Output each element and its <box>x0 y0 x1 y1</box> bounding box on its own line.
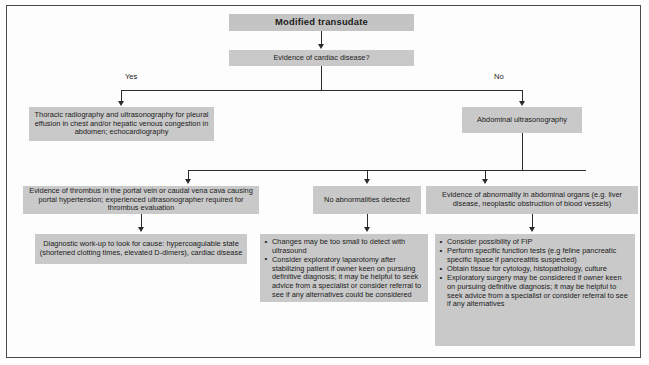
middle-actions-list: Changes may be too small to detect with … <box>264 238 424 299</box>
list-item: Perform specific function tests (e.g fel… <box>439 247 631 264</box>
node-abdominal-ultrasonography: Abdominal ultrasonography <box>462 107 582 133</box>
arrowhead-thrombus <box>185 179 191 184</box>
branch-label-yes: Yes <box>125 72 137 81</box>
list-item: Consider exploratory laparotomy after st… <box>264 256 424 300</box>
connector-decision-down <box>321 66 322 90</box>
arrowhead-yes <box>118 101 124 106</box>
node-right-actions: Consider possibility of FIP Perform spec… <box>435 234 635 346</box>
node-diagnostic-workup: Diagnostic work-up to look for cause: hy… <box>35 234 247 264</box>
arrowhead-right-actions <box>529 227 535 232</box>
arrowhead-no <box>519 101 525 106</box>
node-modified-transudate: Modified transudate <box>229 14 414 31</box>
arrowhead-middle-actions <box>364 227 370 232</box>
connector-abdominal-split <box>188 170 586 171</box>
branch-label-no: No <box>494 72 504 81</box>
arrowhead-abnormality <box>482 179 488 184</box>
connector-decision-split <box>121 90 522 91</box>
node-thrombus-evidence: Evidence of thrombus in the portal vein … <box>23 186 259 214</box>
node-abdominal-abnormality: Evidence of abnormality in abdominal org… <box>426 186 638 214</box>
node-thoracic-radiography: Thoracic radiography and ultrasonography… <box>29 107 214 141</box>
connector-abnormality-to-actions <box>532 214 533 228</box>
arrowhead-noabn <box>364 179 370 184</box>
flowchart-page: Modified transudate Evidence of cardiac … <box>0 0 649 365</box>
list-item: Changes may be too small to detect with … <box>264 238 424 255</box>
node-evidence-cardiac-disease: Evidence of cardiac disease? <box>229 50 414 66</box>
list-item: Exploratory surgery may be considered if… <box>439 274 631 309</box>
connector-title-to-decision <box>321 31 322 45</box>
arrowhead-title-to-decision <box>318 44 324 49</box>
diagram-frame: Modified transudate Evidence of cardiac … <box>6 5 641 358</box>
connector-abdominal-down <box>522 133 523 170</box>
node-no-abnormalities: No abnormalities detected <box>313 186 421 214</box>
right-actions-list: Consider possibility of FIP Perform spec… <box>439 238 631 309</box>
connector-noabn-to-actions <box>367 214 368 228</box>
arrowhead-workup <box>138 227 144 232</box>
node-middle-actions: Changes may be too small to detect with … <box>260 234 428 302</box>
connector-thrombus-to-workup <box>141 214 142 228</box>
